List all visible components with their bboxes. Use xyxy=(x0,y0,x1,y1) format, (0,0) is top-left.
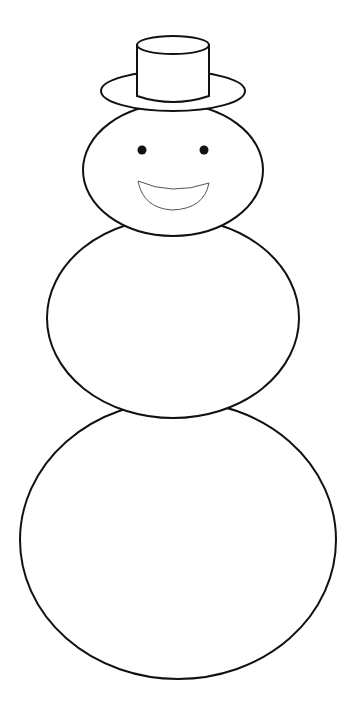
hat-top xyxy=(137,36,209,54)
middle-body xyxy=(47,218,299,418)
right-eye xyxy=(200,146,209,155)
head xyxy=(83,104,263,236)
left-eye xyxy=(138,146,147,155)
bottom-body xyxy=(20,401,336,679)
snowman-drawing xyxy=(0,0,356,718)
